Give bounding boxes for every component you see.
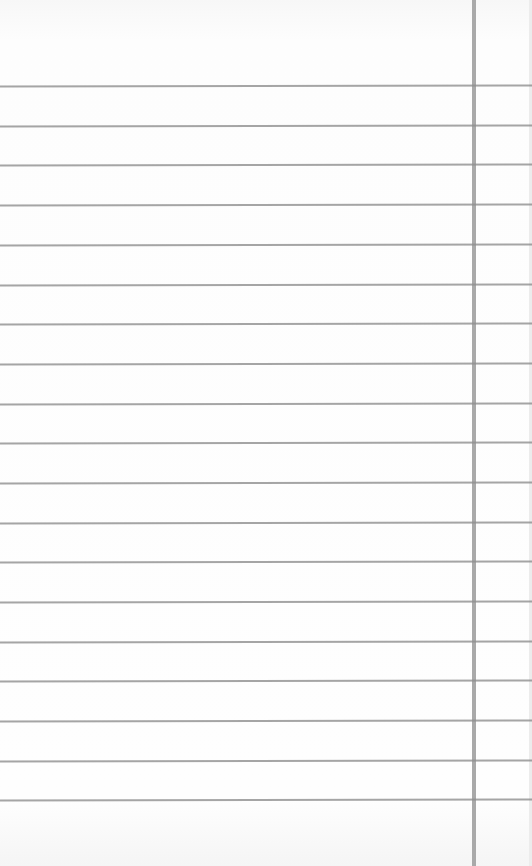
ruled-line	[0, 600, 532, 603]
ruled-line	[0, 481, 532, 484]
ruled-line	[0, 521, 532, 524]
ruled-line	[0, 362, 532, 365]
ruled-line	[0, 203, 532, 206]
ruled-line	[0, 679, 532, 682]
ruled-line	[0, 759, 532, 762]
ruled-line	[0, 560, 532, 563]
ruled-line	[0, 243, 532, 246]
ruled-line	[0, 640, 532, 643]
ruled-line	[0, 124, 532, 127]
ruled-line	[0, 84, 532, 87]
ruled-line	[0, 798, 532, 801]
lined-paper	[0, 0, 532, 866]
ruled-line	[0, 719, 532, 722]
ruled-line	[0, 402, 532, 405]
ruled-line	[0, 441, 532, 444]
ruled-line	[0, 163, 532, 166]
ruled-line	[0, 283, 532, 286]
ruled-line	[0, 322, 532, 325]
margin-line	[472, 0, 476, 866]
